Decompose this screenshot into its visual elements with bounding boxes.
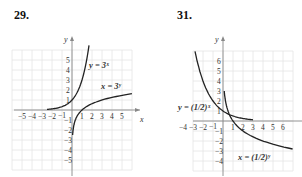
svg-text:3: 3 <box>251 123 255 132</box>
svg-text:5: 5 <box>217 67 221 76</box>
svg-text:4: 4 <box>217 77 221 86</box>
svg-text:−3: −3 <box>215 147 223 156</box>
svg-text:3: 3 <box>217 87 221 96</box>
curve-label-x-eq-half-y: x = (1/2)ʸ <box>237 152 271 162</box>
svg-text:6: 6 <box>217 57 221 66</box>
chart-31: y −4−3−2−1123456654321−1−2−3−4 y = (1/2)… <box>0 0 302 177</box>
svg-text:6: 6 <box>281 123 285 132</box>
svg-text:−2: −2 <box>199 123 207 132</box>
svg-text:−4: −4 <box>179 123 187 132</box>
y-axis-label-31: y <box>214 35 219 44</box>
curve-x-eq-half-pow-y <box>224 91 292 149</box>
svg-text:−2: −2 <box>215 137 223 146</box>
svg-text:−4: −4 <box>215 157 223 166</box>
svg-text:2: 2 <box>217 97 221 106</box>
svg-text:−3: −3 <box>189 123 197 132</box>
curve-label-y-eq-half-x: y = (1/2)ˣ <box>177 102 210 112</box>
svg-text:4: 4 <box>261 123 265 132</box>
svg-text:5: 5 <box>271 123 275 132</box>
svg-text:1: 1 <box>231 123 235 132</box>
svg-text:−1: −1 <box>215 127 223 136</box>
